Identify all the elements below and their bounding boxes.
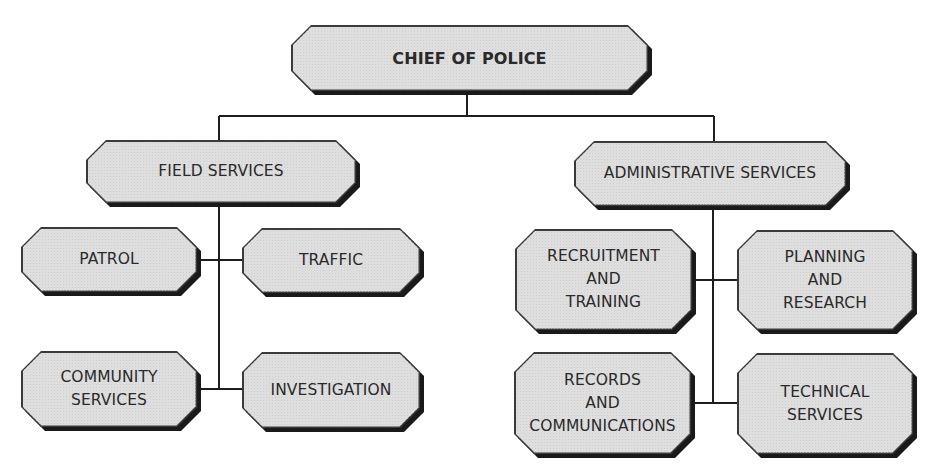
node-label: CHIEF OF POLICE — [392, 47, 546, 70]
node-technical-services: TECHNICAL SERVICES — [737, 353, 913, 454]
node-label: TECHNICAL SERVICES — [781, 381, 870, 427]
node-field-services: FIELD SERVICES — [86, 140, 356, 203]
node-label: RECRUITMENT AND TRAINING — [547, 245, 660, 314]
node-chief-of-police: CHIEF OF POLICE — [291, 25, 648, 91]
node-label: COMMUNITY SERVICES — [60, 366, 157, 412]
node-recruitment-and-training: RECRUITMENT AND TRAINING — [515, 229, 692, 330]
node-investigation: INVESTIGATION — [242, 352, 420, 428]
node-label: INVESTIGATION — [271, 379, 392, 402]
node-label: FIELD SERVICES — [158, 160, 283, 183]
node-label: ADMINISTRATIVE SERVICES — [604, 162, 816, 185]
node-label: RECORDS AND COMMUNICATIONS — [529, 369, 676, 438]
node-community-services: COMMUNITY SERVICES — [21, 351, 197, 427]
node-planning-and-research: PLANNING AND RESEARCH — [737, 230, 913, 330]
node-traffic: TRAFFIC — [242, 228, 420, 293]
node-patrol: PATROL — [21, 227, 197, 292]
node-label: PLANNING AND RESEARCH — [783, 246, 867, 315]
node-administrative-services: ADMINISTRATIVE SERVICES — [574, 141, 846, 206]
node-label: TRAFFIC — [299, 249, 363, 272]
node-label: PATROL — [79, 248, 138, 271]
node-records-and-communications: RECORDS AND COMMUNICATIONS — [514, 352, 691, 454]
